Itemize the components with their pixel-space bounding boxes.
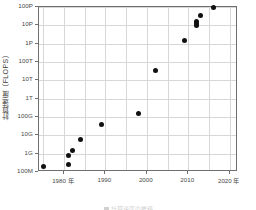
y-tick-label: 100T <box>3 57 33 64</box>
y-tick-label: 100M <box>3 167 33 174</box>
y-gridline <box>39 7 236 8</box>
figure-caption: 計算速度の推移 <box>0 204 256 210</box>
caption-text: 計算速度の推移 <box>111 206 153 210</box>
x-gridline <box>209 7 210 170</box>
y-gridline <box>39 25 236 26</box>
data-point <box>153 68 158 73</box>
y-gridline <box>39 135 236 136</box>
y-tick-mark <box>35 134 38 135</box>
x-tick-mark <box>146 171 147 174</box>
caption-marker-icon <box>104 207 109 210</box>
y-tick-mark <box>35 61 38 62</box>
x-gridline <box>147 7 148 170</box>
data-point <box>194 19 199 24</box>
data-point <box>198 13 203 18</box>
y-tick-mark <box>35 43 38 44</box>
y-tick-mark <box>35 171 38 172</box>
y-tick-mark <box>35 79 38 80</box>
plot-area <box>38 6 237 171</box>
data-point <box>182 38 187 43</box>
y-gridline <box>39 80 236 81</box>
figure-container: 計算速度（FLOPS） 計算速度の推移 100M1G10G100G1T10T10… <box>0 0 256 210</box>
y-tick-mark <box>35 6 38 7</box>
x-gridline <box>64 7 65 170</box>
y-tick-mark <box>35 116 38 117</box>
x-gridline <box>105 7 106 170</box>
x-tick-mark <box>187 171 188 174</box>
y-tick-label: 1T <box>3 94 33 101</box>
data-point <box>70 148 75 153</box>
y-tick-mark <box>35 98 38 99</box>
y-gridline <box>39 44 236 45</box>
x-tick-mark <box>229 171 230 174</box>
x-gridline <box>43 7 44 170</box>
x-tick-label: 1990 <box>97 176 111 183</box>
y-tick-label: 100P <box>3 2 33 9</box>
x-gridline <box>85 7 86 170</box>
x-tick-label: 2010 <box>180 176 194 183</box>
y-tick-label: 100G <box>3 112 33 119</box>
x-gridline <box>168 7 169 170</box>
y-gridline <box>39 117 236 118</box>
x-gridline <box>126 7 127 170</box>
y-tick-label: 1P <box>3 39 33 46</box>
data-point <box>211 5 216 10</box>
y-gridline <box>39 99 236 100</box>
y-tick-label: 1G <box>3 149 33 156</box>
data-point <box>99 122 104 127</box>
y-gridline <box>39 62 236 63</box>
x-tick-label: 2000 <box>139 176 153 183</box>
data-point <box>78 137 83 142</box>
x-gridline <box>230 7 231 170</box>
x-tick-mark <box>63 171 64 174</box>
data-point <box>66 153 71 158</box>
x-gridline <box>188 7 189 170</box>
data-point <box>136 111 141 116</box>
y-tick-label: 10T <box>3 75 33 82</box>
data-point <box>66 162 71 167</box>
x-tick-label: 2020 年 <box>218 176 239 185</box>
x-tick-label: 1980 年 <box>52 176 73 185</box>
data-point <box>41 164 46 169</box>
y-tick-label: 10G <box>3 130 33 137</box>
x-tick-mark <box>104 171 105 174</box>
y-tick-mark <box>35 24 38 25</box>
y-tick-mark <box>35 153 38 154</box>
y-tick-label: 10P <box>3 20 33 27</box>
